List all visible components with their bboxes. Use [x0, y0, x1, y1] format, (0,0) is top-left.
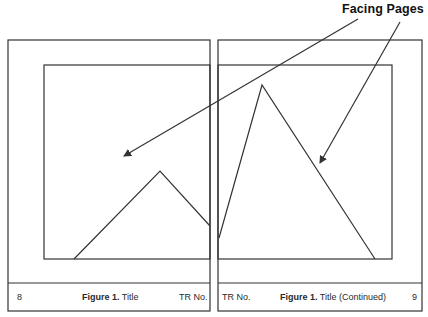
- left-figure-graph: [74, 171, 210, 259]
- arrow-to-right-page: [320, 22, 400, 163]
- right-figure-box: [218, 65, 392, 259]
- facing-pages-diagram: [0, 0, 428, 317]
- right-report-id: TR No.: [222, 292, 251, 302]
- right-figure-label: Figure 1.: [280, 292, 318, 302]
- left-figure-label: Figure 1.: [82, 292, 120, 302]
- right-figure-caption: Figure 1. Title (Continued): [280, 292, 386, 302]
- facing-pages-callout: Facing Pages: [342, 2, 424, 16]
- right-page-number: 9: [412, 292, 417, 302]
- right-figure-graph: [219, 85, 375, 259]
- left-report-id: TR No.: [179, 292, 208, 302]
- right-figure-title: Title (Continued): [320, 292, 386, 302]
- left-figure-title: Title: [122, 292, 139, 302]
- left-page-frame: [8, 40, 210, 311]
- left-figure-caption: Figure 1. Title: [82, 292, 139, 302]
- left-page-number: 8: [17, 292, 22, 302]
- left-figure-box: [44, 65, 210, 259]
- right-page-frame: [218, 40, 422, 311]
